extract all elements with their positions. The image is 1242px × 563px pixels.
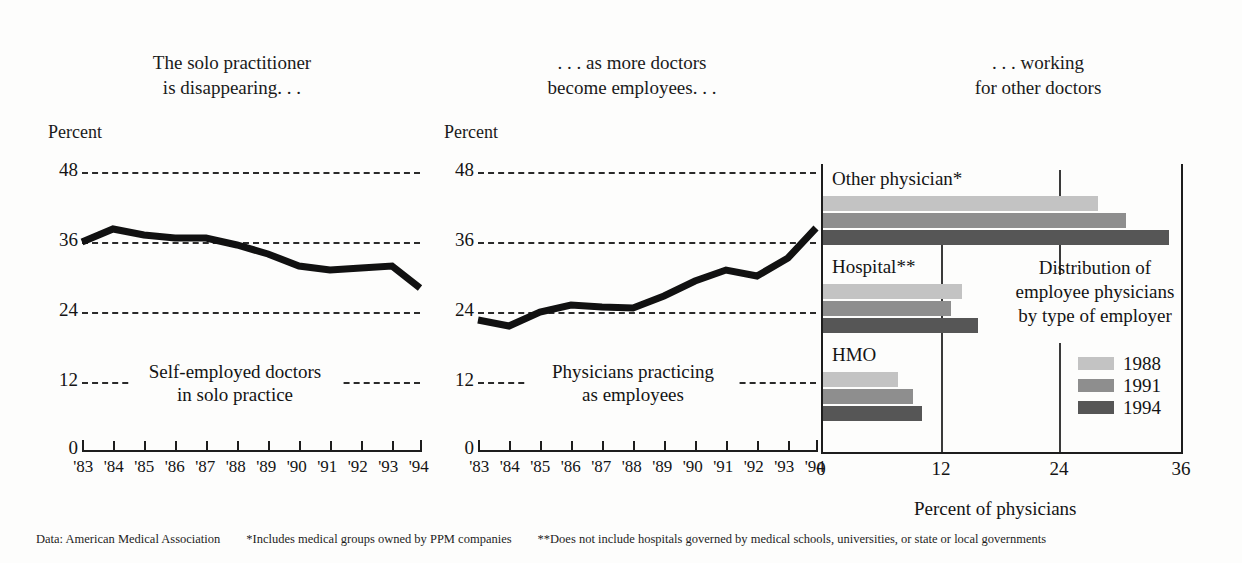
legend-item-1991: 1991 [1078,374,1161,396]
legend-label-1994: 1994 [1123,398,1161,417]
bar-chart-caption: Distribution of employee physicians by t… [985,256,1205,328]
bar-other-physician-1991 [823,213,1126,228]
bar-chart: Other physician* Hospital** HMO Distribu… [0,0,1242,563]
bar-hospital-1988 [823,284,962,299]
bar-chart-baseline [821,452,1183,454]
footnotes: Data: American Medical Association *Incl… [36,532,1216,547]
footnote-asterisk: *Includes medical groups owned by PPM co… [246,532,511,547]
bar-group-label-hmo: HMO [832,344,876,366]
bar-group-label-other-physician: Other physician* [832,168,962,190]
bar-chart-gridline-24-bottom [1059,343,1061,452]
bar-group-label-hospital: Hospital** [832,256,915,278]
bar-hospital-1994 [823,318,978,333]
bar-chart-xtick-36: 36 [1161,458,1201,480]
bar-hmo-1994 [823,406,922,421]
bar-chart-xtick-0: 0 [801,458,841,480]
bar-hospital-1991 [823,301,951,316]
bar-hmo-1988 [823,372,898,387]
bar-chart-axis-title: Percent of physicians [914,498,1077,520]
footnote-data-source: Data: American Medical Association [36,532,220,547]
bar-chart-xtick-24: 24 [1039,458,1079,480]
legend-swatch-1991 [1078,379,1114,392]
legend-item-1994: 1994 [1078,396,1161,418]
legend-label-1988: 1988 [1123,354,1161,373]
bar-chart-gridline-12-bottom [941,343,943,452]
legend-swatch-1988 [1078,357,1114,370]
legend-swatch-1994 [1078,401,1114,414]
bar-chart-legend: 1988 1991 1994 [1078,352,1161,418]
bar-other-physician-1994 [823,230,1169,245]
figure-root: The solo practitioner is disappearing. .… [0,0,1242,563]
footnote-double-asterisk: **Does not include hospitals governed by… [538,532,1047,547]
bar-other-physician-1988 [823,196,1098,211]
bar-hmo-1991 [823,389,913,404]
legend-label-1991: 1991 [1123,376,1161,395]
bar-chart-xtick-12: 12 [921,458,961,480]
legend-item-1988: 1988 [1078,352,1161,374]
